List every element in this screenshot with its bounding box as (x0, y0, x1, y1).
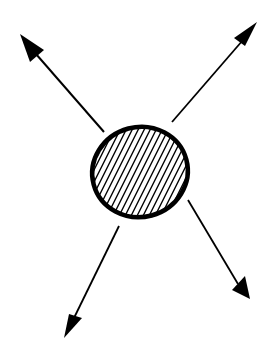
diagram-svg (0, 0, 277, 362)
arrow-down-right (188, 200, 250, 299)
hatched-circle (30, 90, 230, 250)
sketch-canvas: Hand-drawn sketch: a hatched circle in t… (0, 0, 277, 362)
arrow-up-right (172, 22, 257, 122)
arrow-down-left (64, 226, 119, 338)
arrow-up-left (20, 34, 104, 132)
